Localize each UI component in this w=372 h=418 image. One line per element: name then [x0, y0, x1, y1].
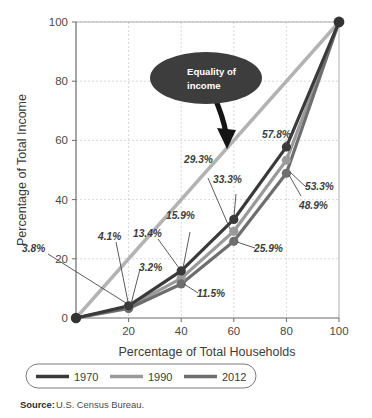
source-text: U.S. Census Bureau. — [56, 399, 144, 410]
legend-label-2012: 2012 — [222, 371, 246, 383]
data-label-13-4: 13.4% — [133, 228, 162, 239]
x-axis-title: Percentage of Total Households — [119, 345, 296, 359]
y-tick-label-100: 100 — [49, 16, 68, 28]
x-tick-label-20: 20 — [122, 325, 135, 337]
data-label-25-9: 25.9% — [253, 243, 283, 254]
y-tick-label-40: 40 — [55, 194, 68, 206]
x-tick-label-60: 60 — [227, 325, 240, 337]
x-tick-label-80: 80 — [280, 325, 293, 337]
x-tick-label-40: 40 — [175, 325, 188, 337]
legend: 1970 1990 2012 — [26, 364, 256, 388]
chart-svg: 100 80 60 40 20 0 20 40 60 80 100 Percen… — [0, 0, 372, 418]
data-label-3-8: 3.8% — [22, 243, 45, 254]
data-label-11-5: 11.5% — [197, 288, 225, 299]
data-label-15-9: 15.9% — [166, 210, 195, 221]
equality-of-income-callout: Equality of income — [150, 52, 262, 104]
source-prefix: Source: — [20, 399, 55, 410]
data-label-4-1: 4.1% — [97, 231, 121, 242]
data-label-29-3: 29.3% — [183, 154, 213, 165]
source-note: Source: U.S. Census Bureau. — [20, 399, 144, 410]
data-label-48-9: 48.9% — [298, 200, 328, 211]
data-label-57-8: 57.8% — [262, 129, 291, 140]
y-axis-title: Percentage of Total Income — [15, 94, 29, 246]
legend-label-1990: 1990 — [148, 371, 172, 383]
legend-label-1970: 1970 — [74, 371, 98, 383]
lorenz-curve-figure: 100 80 60 40 20 0 20 40 60 80 100 Percen… — [0, 0, 372, 418]
data-label-33-3: 33.3% — [213, 174, 242, 185]
callout-line-1: Equality of — [187, 66, 237, 77]
callout-line-2: income — [187, 80, 221, 91]
y-tick-label-0: 0 — [62, 312, 68, 324]
x-tick-label-100: 100 — [329, 325, 348, 337]
y-tick-label-60: 60 — [55, 134, 68, 146]
data-label-53-3: 53.3% — [305, 181, 334, 192]
data-label-3-2: 3.2% — [139, 262, 162, 273]
y-tick-label-80: 80 — [55, 75, 68, 87]
